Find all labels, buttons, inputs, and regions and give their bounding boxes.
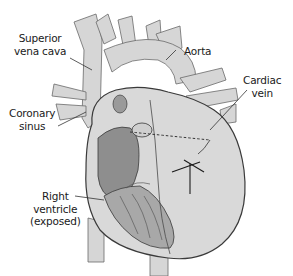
label-line: sinus bbox=[9, 120, 55, 133]
label-line: Aorta bbox=[184, 45, 211, 58]
label-line: Superior bbox=[14, 32, 66, 45]
label-line: Coronary bbox=[9, 107, 55, 120]
label-cardiac-vein: Cardiac vein bbox=[243, 74, 281, 99]
label-superior-vena-cava: Superior vena cava bbox=[14, 32, 66, 57]
label-coronary-sinus: Coronary sinus bbox=[9, 107, 55, 132]
label-line: ventricle bbox=[30, 203, 81, 216]
label-aorta: Aorta bbox=[184, 45, 211, 58]
label-line: (exposed) bbox=[30, 215, 81, 228]
label-line: Right bbox=[30, 190, 81, 203]
label-right-ventricle: Right ventricle (exposed) bbox=[30, 190, 81, 228]
label-line: Cardiac bbox=[243, 74, 281, 87]
label-line: vena cava bbox=[14, 45, 66, 58]
label-line: vein bbox=[243, 87, 281, 100]
